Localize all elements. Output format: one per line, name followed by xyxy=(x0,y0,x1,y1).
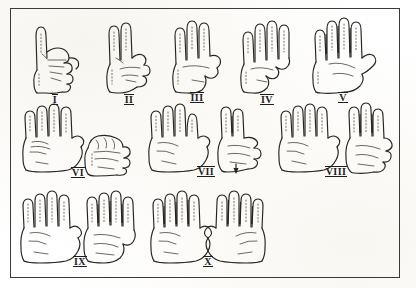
gesture-cell-II: II xyxy=(96,14,162,94)
hand-drawing-I xyxy=(22,14,88,94)
hand-drawing-III xyxy=(163,12,231,94)
gesture-cell-VII: VII xyxy=(144,102,268,176)
hand-counting-figure: I II xyxy=(0,0,416,288)
hand-drawing-II xyxy=(96,14,162,94)
numeral-label-VII: VII xyxy=(176,166,236,177)
gesture-cell-IV: IV xyxy=(233,14,301,94)
gesture-cell-III: III xyxy=(163,12,231,94)
hand-drawing-X xyxy=(146,192,270,266)
hand-drawing-VII xyxy=(144,102,268,176)
gesture-cell-I: I xyxy=(22,14,88,94)
hand-drawing-VI xyxy=(18,104,138,176)
hand-drawing-IV xyxy=(233,14,301,94)
hand-drawing-V xyxy=(305,12,381,94)
gesture-cell-X: X xyxy=(146,192,270,266)
gesture-cell-IX: IX xyxy=(16,192,142,266)
numeral-label-VI: VI xyxy=(48,167,108,178)
numeral-label-VIII: VIII xyxy=(306,166,366,177)
numeral-label-IX: IX xyxy=(50,256,110,267)
numeral-label-X: X xyxy=(178,256,238,267)
gesture-cell-VI: VI xyxy=(18,104,138,176)
gesture-cell-VIII: VIII xyxy=(274,104,398,176)
numeral-label-V: V xyxy=(305,92,381,103)
hand-drawing-IX xyxy=(16,192,142,266)
gesture-cell-V: V xyxy=(305,12,381,94)
